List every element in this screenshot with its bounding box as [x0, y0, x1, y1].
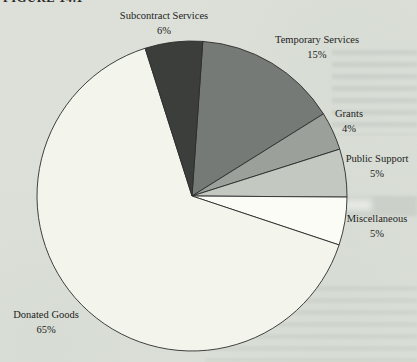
slice-name: Miscellaneous	[347, 212, 408, 227]
slice-percent: 5%	[347, 227, 408, 242]
slice-name: Temporary Services	[275, 33, 359, 48]
slice-percent: 6%	[120, 24, 208, 39]
scanned-figure-page: FIGURE 14.1 Subcontract Services 6% Temp…	[0, 0, 417, 362]
slice-name: Subcontract Services	[120, 9, 208, 24]
slice-name: Public Support	[346, 152, 409, 167]
slice-label-miscellaneous: Miscellaneous 5%	[347, 212, 408, 241]
slice-percent: 15%	[275, 48, 359, 63]
slice-percent: 5%	[346, 167, 409, 182]
slice-label-donated-goods: Donated Goods 65%	[13, 308, 79, 337]
figure-caption: FIGURE 14.1	[3, 0, 83, 6]
slice-name: Grants	[335, 107, 363, 122]
slice-label-grants: Grants 4%	[335, 107, 363, 136]
slice-percent: 4%	[335, 122, 363, 137]
slice-name: Donated Goods	[13, 308, 79, 323]
slice-label-subcontract-services: Subcontract Services 6%	[120, 9, 208, 38]
slice-label-temporary-services: Temporary Services 15%	[275, 33, 359, 62]
slice-percent: 65%	[13, 323, 79, 338]
slice-label-public-support: Public Support 5%	[346, 152, 409, 181]
